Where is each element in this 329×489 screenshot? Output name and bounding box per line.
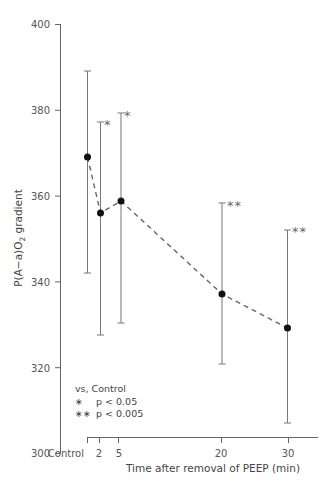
y-axis-title: P(A−a)O2 gradient <box>12 189 27 287</box>
error-bars <box>84 71 291 423</box>
y-tick-380: 380 <box>31 105 50 116</box>
x-axis <box>87 438 318 444</box>
point-20min <box>219 291 226 298</box>
x-tick-2: 2 <box>96 448 102 459</box>
star-30min: ** <box>292 224 307 239</box>
x-tick-30: 30 <box>282 448 295 459</box>
x-tick-control: Control <box>48 448 84 459</box>
x-tick-labels: Control 2 5 20 30 <box>48 448 295 459</box>
x-tick-20: 20 <box>215 448 228 459</box>
x-axis-title: Time after removal of PEEP (min) <box>125 462 300 474</box>
star-5min: * <box>124 108 131 123</box>
legend-symbol-2: ∗∗ <box>75 408 91 419</box>
y-tick-360: 360 <box>31 191 50 202</box>
point-30min <box>284 325 291 332</box>
data-points <box>84 154 291 332</box>
point-2min <box>97 210 104 217</box>
point-control <box>84 154 91 161</box>
legend-text-2: p < 0.005 <box>96 408 143 419</box>
y-axis <box>55 24 61 454</box>
legend-title: vs, Control <box>75 383 126 394</box>
chart: 400 380 360 340 320 300 P(A−a)O2 gradien… <box>0 0 329 489</box>
y-tick-labels: 400 380 360 340 320 300 <box>31 19 50 459</box>
x-tick-5: 5 <box>116 448 122 459</box>
significance-markers: * * ** ** <box>104 108 307 239</box>
legend-text-1: p < 0.05 <box>96 396 137 407</box>
y-tick-340: 340 <box>31 277 50 288</box>
legend-symbol-1: ∗ <box>75 396 83 407</box>
star-20min: ** <box>227 198 242 213</box>
data-line <box>88 157 288 328</box>
point-5min <box>118 198 125 205</box>
legend: vs, Control ∗ p < 0.05 ∗∗ p < 0.005 <box>75 383 143 419</box>
star-2min: * <box>104 117 111 132</box>
y-tick-320: 320 <box>31 363 50 374</box>
y-tick-400: 400 <box>31 19 50 30</box>
